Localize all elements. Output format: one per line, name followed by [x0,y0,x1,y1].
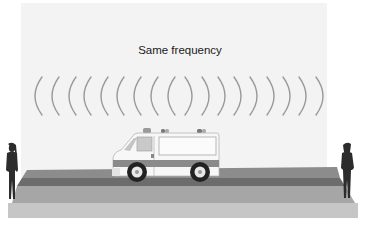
ambulance-rear-wheel [190,162,210,182]
ambulance-light [161,129,165,133]
ambulance-front-wheel [127,162,147,182]
ambulance-bumper [112,168,120,176]
ambulance-light [197,129,202,133]
doppler-diagram: Same frequency [0,0,365,230]
road-mid [12,186,355,203]
ambulance-light [143,128,151,133]
ambulance-box-panel [159,137,216,155]
road-stripe [17,178,345,186]
road-front-face [8,203,358,218]
ambulance-cab-window [137,137,152,151]
ambulance-light [165,129,169,133]
diagram-title: Same frequency [120,44,240,56]
ambulance-door-handle [151,154,154,158]
diagram-canvas [0,0,365,230]
ambulance-light [202,129,206,133]
